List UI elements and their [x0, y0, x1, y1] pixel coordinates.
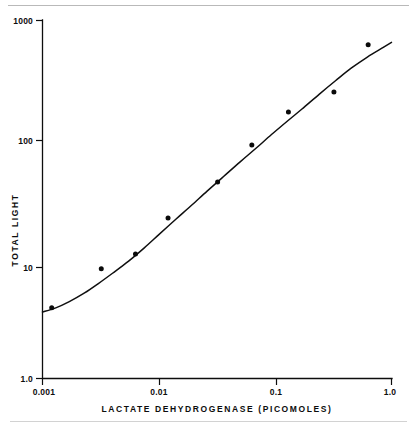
data-point: [215, 180, 220, 185]
y-axis-title: TOTAL LIGHT: [10, 194, 20, 267]
x-axis-title: LACTATE DEHYDROGENASE (PICOMOLES): [102, 404, 333, 414]
data-point: [99, 266, 104, 271]
axis-frame: [43, 20, 393, 379]
y-tick-label-1: 1.0: [21, 374, 33, 384]
data-point: [286, 109, 291, 114]
y-tick-label-100: 100: [18, 136, 33, 146]
data-point: [49, 305, 54, 310]
data-point: [331, 89, 336, 94]
y-tick-label-1000: 1000: [13, 16, 33, 26]
data-point: [249, 142, 254, 147]
fitted-curve: [43, 42, 392, 312]
x-axis-ticks: [43, 379, 392, 386]
data-point-group: [49, 42, 370, 310]
data-point: [133, 252, 138, 257]
figure-container: 1000 100 10 1.0 TOTAL LIGHT 0.001 0.01 0…: [0, 0, 417, 424]
log-log-scatter-plot: 1000 100 10 1.0 TOTAL LIGHT 0.001 0.01 0…: [0, 0, 417, 424]
bottom-divider-rule: [10, 421, 407, 422]
x-tick-label-10: 1.0: [384, 387, 396, 397]
data-point: [166, 216, 171, 221]
y-tick-label-10: 10: [23, 263, 33, 273]
x-tick-label-0001: 0.001: [33, 387, 55, 397]
data-point: [366, 42, 371, 47]
y-axis-ticks: [36, 21, 43, 379]
x-tick-label-01: 0.1: [270, 387, 282, 397]
x-tick-label-001: 0.01: [150, 387, 167, 397]
